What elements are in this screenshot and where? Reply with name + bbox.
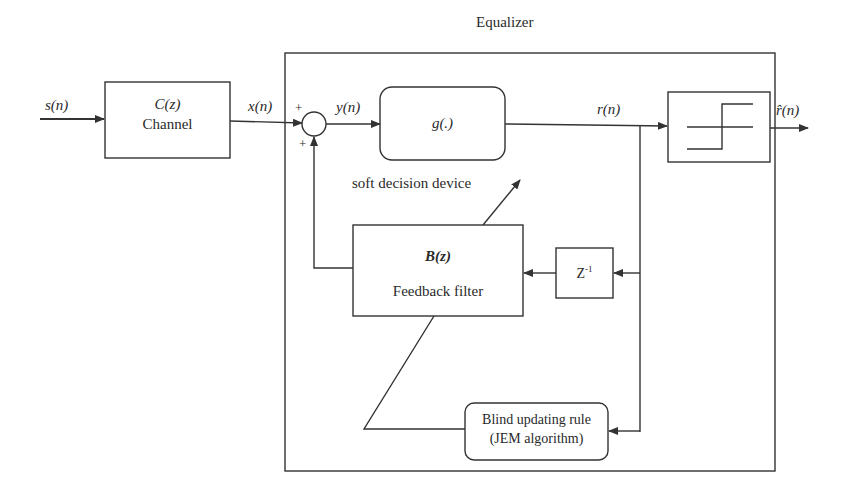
adaptation-arrow bbox=[483, 180, 520, 225]
sum-output-label: y(n) bbox=[336, 100, 360, 115]
soft-output-label: r(n) bbox=[597, 102, 620, 117]
feedback-path bbox=[314, 137, 353, 268]
delay-symbol: Z-1 bbox=[556, 264, 613, 282]
input-signal-label: s(n) bbox=[45, 98, 68, 113]
feedback-filter-label: Feedback filter bbox=[353, 281, 523, 301]
delay-exponent: -1 bbox=[585, 264, 593, 274]
channel-to-summer-arrow bbox=[230, 121, 302, 123]
channel-output-label: x(n) bbox=[248, 99, 272, 114]
summing-junction bbox=[302, 112, 326, 136]
channel-block-text: C(z) Channel bbox=[105, 94, 230, 134]
summer-plus-bottom: + bbox=[299, 137, 306, 150]
soft-decision-symbol: g(.) bbox=[380, 115, 505, 132]
channel-symbol: C(z) bbox=[105, 94, 230, 114]
decision-output-label: r̂(n) bbox=[776, 103, 799, 118]
g-to-quantizer-arrow bbox=[505, 124, 667, 126]
update-rule-line2: (JEM algorithm) bbox=[465, 429, 608, 448]
adaptation-line bbox=[364, 316, 465, 429]
feedback-filter-symbol: B(z) bbox=[425, 248, 451, 264]
equalizer-title: Equalizer bbox=[476, 15, 533, 30]
channel-label: Channel bbox=[105, 114, 230, 134]
summer-plus-top: + bbox=[295, 101, 302, 114]
update-rule-line1: Blind updating rule bbox=[465, 410, 608, 429]
update-rule-text: Blind updating rule (JEM algorithm) bbox=[465, 410, 608, 448]
delay-base: Z bbox=[576, 266, 585, 281]
feedback-filter-text: B(z) Feedback filter bbox=[353, 246, 523, 301]
soft-decision-caption: soft decision device bbox=[352, 176, 471, 191]
